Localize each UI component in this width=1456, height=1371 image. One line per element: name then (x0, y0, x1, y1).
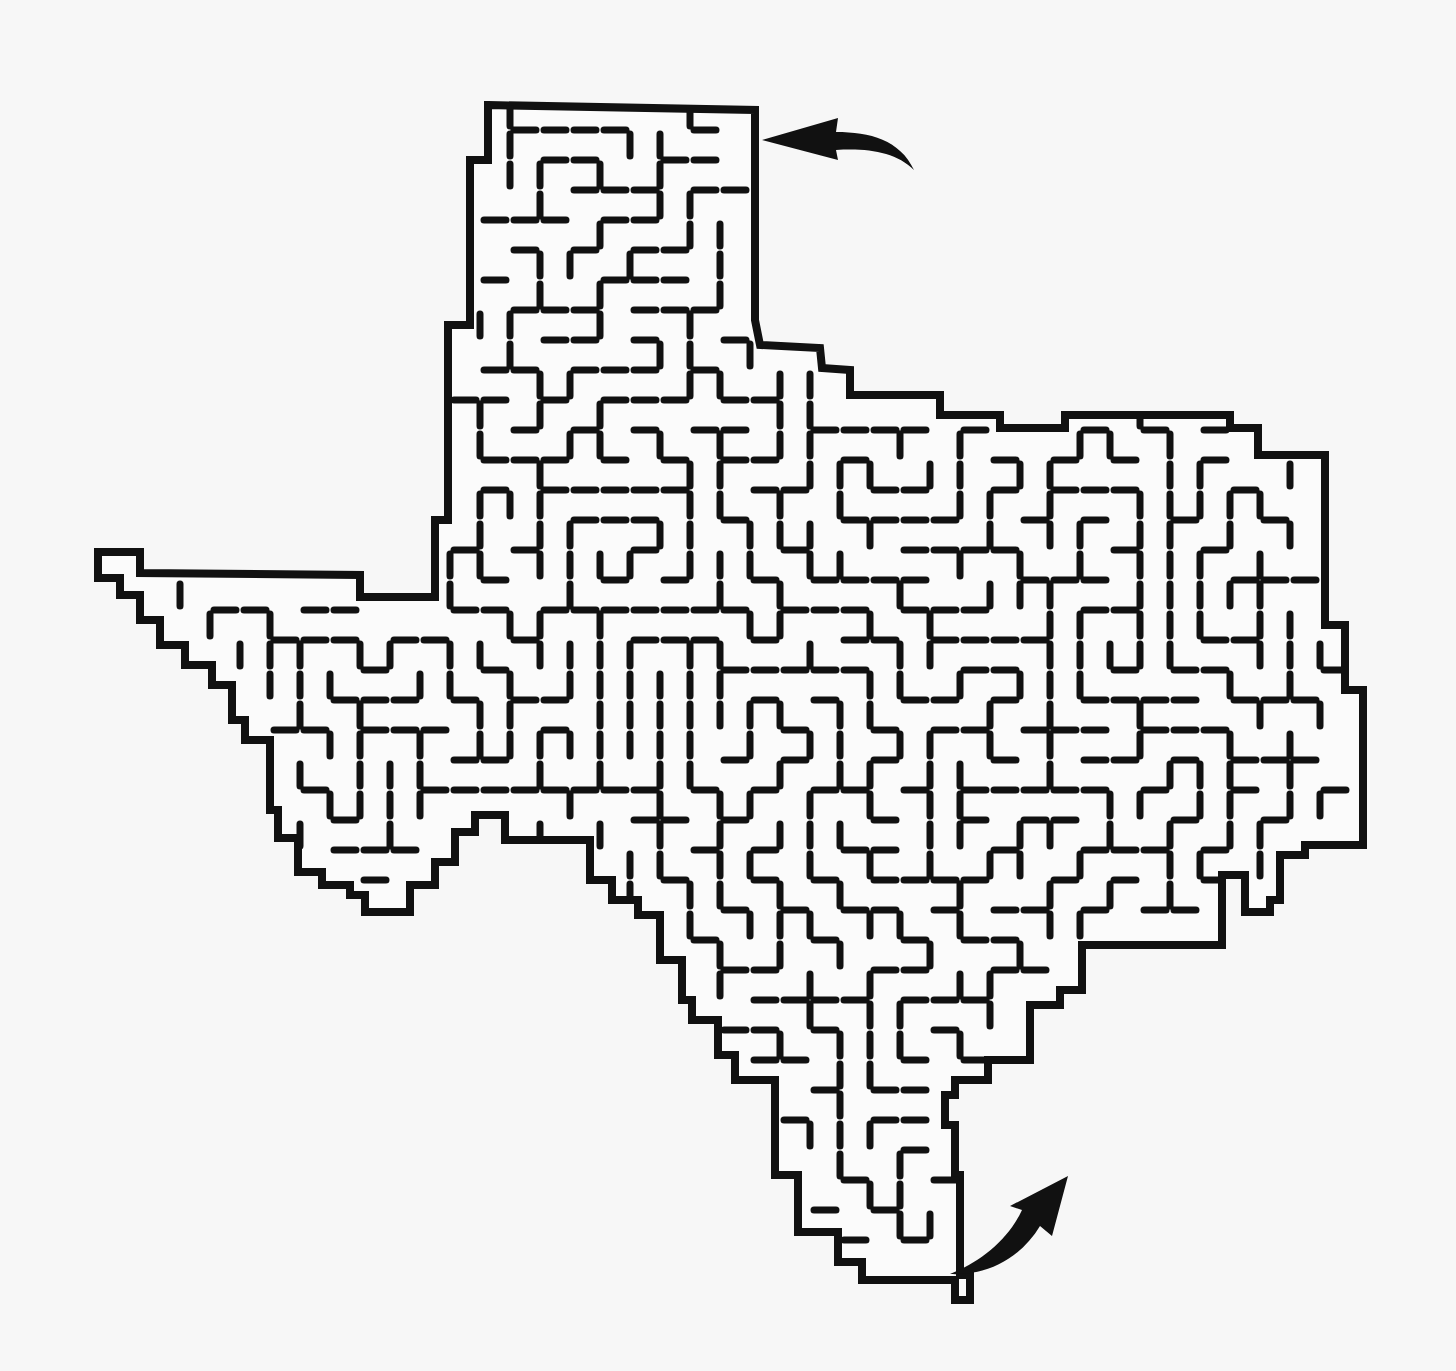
maze-canvas[interactable] (0, 0, 1456, 1371)
maze-puzzle: Texas maze Start Finish (0, 0, 1456, 1371)
entry-arrow-icon (762, 118, 914, 170)
exit-arrow-icon (950, 1176, 1068, 1274)
